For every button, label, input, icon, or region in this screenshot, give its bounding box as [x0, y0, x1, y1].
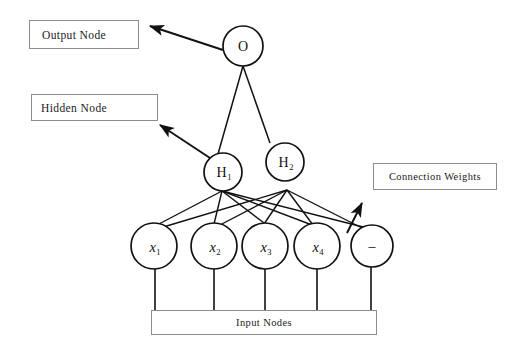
node-x4-circle [294, 223, 340, 269]
edge-o-h2 [243, 66, 270, 143]
connection-weights-callout-text: Connection Weights [389, 171, 481, 182]
edge-h1-x2 [214, 191, 222, 224]
node-circles [131, 26, 393, 269]
edges-output-to-hidden [218, 66, 270, 154]
edge-h1-x4 [222, 191, 320, 228]
node-bias-circle [351, 225, 393, 267]
hidden-node-callout-arrow [160, 125, 210, 158]
input-nodes-callout-box: Input Nodes [151, 310, 377, 335]
output-node-callout-arrow [150, 26, 223, 50]
input-nodes-callout-text: Input Nodes [236, 317, 292, 328]
diagram-canvas: O H1 H2 x1 x2 x3 x4 – Output Node Hidden… [0, 0, 523, 352]
node-x1-circle [131, 223, 177, 269]
output-node-callout-text: Output Node [42, 29, 106, 41]
node-output-circle [223, 26, 263, 66]
hidden-node-callout-text: Hidden Node [41, 102, 107, 114]
node-x2-circle [191, 223, 237, 269]
edge-h2-bias [287, 190, 362, 228]
node-h1-circle [204, 153, 242, 191]
node-x3-circle [242, 223, 288, 269]
edge-h1-bias [222, 191, 367, 228]
edges-h2-to-inputs [160, 190, 362, 228]
edges-inputs-to-bar [155, 267, 371, 310]
hidden-node-callout-box: Hidden Node [31, 94, 158, 121]
node-h2-circle [266, 143, 304, 181]
connection-weights-callout-box: Connection Weights [373, 163, 497, 190]
edge-o-h1 [218, 66, 243, 154]
output-node-callout-box: Output Node [29, 20, 139, 49]
